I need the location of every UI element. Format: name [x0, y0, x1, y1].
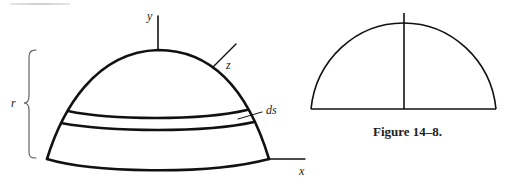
- semicircle-diagram: [311, 13, 496, 109]
- y-axis-label: y: [146, 9, 153, 23]
- band-upper-edge: [68, 110, 247, 118]
- figure-caption: Figure 14–8.: [373, 124, 442, 139]
- x-axis-label: x: [298, 164, 305, 178]
- z-axis-label: z: [225, 58, 231, 72]
- figure-14-8: y z x r ds Figure 14–8.: [0, 0, 510, 185]
- diagram-canvas: y z x r ds Figure 14–8.: [0, 0, 510, 185]
- radius-label: r: [11, 96, 16, 110]
- band-lower-edge: [61, 122, 254, 130]
- radius-brace: [24, 50, 36, 158]
- ds-label: ds: [266, 103, 277, 117]
- dome-diagram: [24, 16, 305, 170]
- z-axis: [213, 44, 236, 67]
- page-edge-artifact: [10, 3, 70, 5]
- dome-base-curve: [47, 159, 269, 170]
- dome-outline: [47, 50, 269, 159]
